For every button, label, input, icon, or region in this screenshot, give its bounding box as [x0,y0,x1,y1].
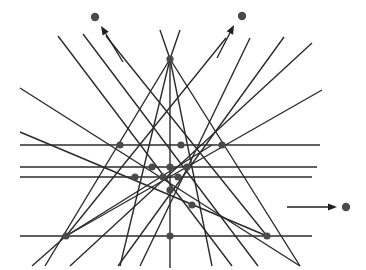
figure-background [0,0,366,270]
node-right-upper [218,141,225,148]
node-mid-c [183,163,190,170]
node-bottom-center [166,232,173,239]
node-mid-a [148,163,155,170]
node-lower-center [166,186,173,193]
node-mid-e [159,173,166,180]
marker-top-right-dot [238,12,246,20]
node-bottom-left [62,232,69,239]
node-left-upper [116,141,123,148]
node-mid-f [174,173,181,180]
figure-canvas [0,0,366,270]
node-lower-right [188,201,195,208]
marker-right-dot [342,203,350,211]
node-center-upper [177,141,184,148]
node-apex-top [166,55,173,62]
node-bottom-right [263,232,270,239]
line-arrangement-figure [0,0,366,270]
marker-top-left-dot [91,13,99,21]
node-mid-b [166,163,173,170]
node-mid-d [131,173,138,180]
